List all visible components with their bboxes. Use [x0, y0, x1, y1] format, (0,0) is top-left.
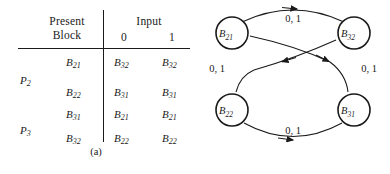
node-b21[interactable]: B21: [216, 17, 248, 49]
edge-label-b31-b21: 0, 1: [361, 63, 377, 74]
header-present-block: Present Block: [36, 14, 98, 42]
node-b31[interactable]: B31: [338, 94, 370, 126]
state-diagram-svg: B21 B32 B22 B31: [196, 0, 390, 150]
table-cell-next0: B22: [114, 132, 129, 146]
table-cell-next1: B31: [162, 86, 177, 100]
edge-b31-to-b21: [250, 36, 348, 92]
table-row: B31: [66, 108, 81, 122]
caption-a: (a): [60, 146, 132, 157]
partition-label-p2: P2: [20, 74, 31, 88]
header-input-col-0: 0: [108, 30, 140, 44]
table-row: B32: [66, 132, 81, 146]
edge-label-b22-b31: 0, 1: [285, 125, 301, 136]
header-present-block-line2: Block: [36, 28, 98, 42]
table-cell-next0: B32: [114, 56, 129, 70]
table-cell-next1: B21: [162, 108, 177, 122]
panel-b-state-diagram: B21 B32 B22 B31: [196, 0, 390, 174]
edge-b32-to-b22: [236, 40, 336, 92]
edge-label-b32-b22: 0, 1: [209, 63, 225, 74]
table-cell-next0: B31: [114, 86, 129, 100]
figure-root: Present Block Input 0 1 P2 B21 B32 B32: [0, 0, 390, 174]
table-header-rule: [18, 48, 190, 49]
table-row: B22: [66, 86, 81, 100]
node-b22[interactable]: B22: [216, 94, 248, 126]
table-row: B21: [66, 56, 81, 70]
header-input-col-1: 1: [156, 30, 188, 44]
table-cell-next1: B32: [162, 56, 177, 70]
header-input: Input: [108, 14, 190, 28]
table-column-divider: [103, 10, 104, 142]
table-cell-next1: B22: [162, 132, 177, 146]
node-b32[interactable]: B32: [338, 17, 370, 49]
header-present-block-line1: Present: [36, 14, 98, 28]
edge-label-b21-b32: 0, 1: [285, 13, 301, 24]
panel-a-state-table: Present Block Input 0 1 P2 B21 B32 B32: [0, 0, 196, 174]
partition-label-p3: P3: [20, 124, 31, 138]
table-cell-next0: B21: [114, 108, 129, 122]
state-table: Present Block Input 0 1 P2 B21 B32 B32: [18, 8, 190, 140]
